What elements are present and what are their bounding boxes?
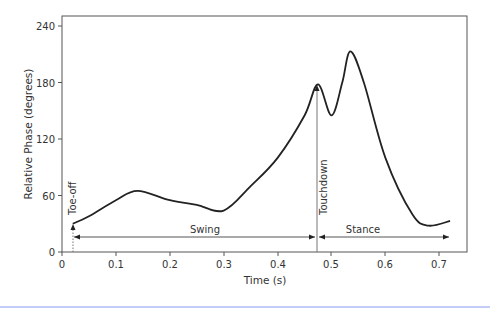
toe-off-marker: Toe-off xyxy=(67,180,78,252)
arrow-left-icon xyxy=(74,235,80,240)
swing-label: Swing xyxy=(190,224,220,235)
arrow-left-icon xyxy=(319,235,325,240)
arrow-right-icon xyxy=(309,235,315,240)
y-axis: 0 60 120 180 240 Relative Phase (degrees… xyxy=(22,21,62,258)
y-tick-label: 0 xyxy=(49,247,55,258)
x-axis-title: Time (s) xyxy=(243,274,287,286)
x-tick-label: 0.6 xyxy=(377,259,393,270)
x-tick-label: 0 xyxy=(59,259,65,270)
y-tick-label: 60 xyxy=(42,191,55,202)
x-tick-label: 0.4 xyxy=(270,259,286,270)
x-axis: 0 0.1 0.2 0.3 0.4 0.5 0.6 0.7 Time (s) xyxy=(59,252,447,286)
plot-frame xyxy=(62,16,467,252)
y-tick-label: 240 xyxy=(36,21,55,32)
y-tick-label: 120 xyxy=(36,134,55,145)
x-tick-label: 0.3 xyxy=(216,259,232,270)
x-tick-label: 0.2 xyxy=(162,259,178,270)
x-tick-label: 0.5 xyxy=(323,259,339,270)
touchdown-marker: Touchdown xyxy=(315,85,330,252)
y-tick-label: 180 xyxy=(36,78,55,89)
swing-span: Swing xyxy=(74,224,315,240)
x-tick-label: 0.7 xyxy=(431,259,447,270)
arrow-right-icon xyxy=(443,235,449,240)
stance-label: Stance xyxy=(346,224,380,235)
x-tick-label: 0.1 xyxy=(108,259,124,270)
relative-phase-line xyxy=(73,51,450,225)
y-axis-title: Relative Phase (degrees) xyxy=(22,69,34,200)
chart-figure: 0 60 120 180 240 Relative Phase (degrees… xyxy=(0,0,490,313)
touchdown-label: Touchdown xyxy=(318,159,329,216)
arrow-up-icon xyxy=(71,224,76,230)
toe-off-label: Toe-off xyxy=(67,180,78,216)
